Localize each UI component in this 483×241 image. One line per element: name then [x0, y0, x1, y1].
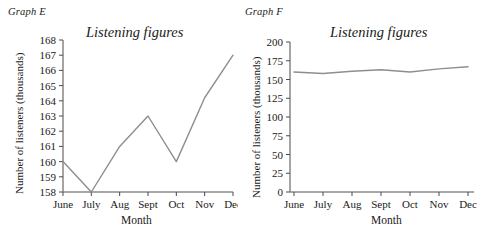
y-tick-label-graph-f: 125 [267, 92, 284, 104]
x-tick-label-graph-e: July [82, 198, 101, 210]
chart-panel-graph-e: Graph E Listening figures Number of list… [0, 0, 238, 241]
y-tick-label-graph-f: 75 [272, 130, 284, 142]
x-tick-label-graph-e: Nov [195, 198, 214, 210]
x-tick-label-graph-f: Dec [459, 198, 477, 210]
x-tick-label-graph-f: Aug [343, 198, 362, 210]
chart-panel-graph-f: Graph F Listening figures Number of list… [238, 0, 483, 241]
y-tick-label-graph-f: 175 [267, 55, 284, 67]
y-tick-label-graph-e: 160 [40, 156, 57, 168]
y-tick-label-graph-e: 164 [40, 95, 57, 107]
x-tick-label-graph-e: Aug [110, 198, 129, 210]
y-tick-label-graph-e: 165 [40, 80, 57, 92]
x-tick-label-graph-f: June [284, 198, 304, 210]
plot-area-graph-f: 0255075100125150175200JuneJulyAugSeptOct… [238, 0, 483, 241]
y-tick-label-graph-e: 166 [40, 64, 57, 76]
y-tick-label-graph-f: 50 [272, 149, 284, 161]
y-tick-label-graph-e: 167 [40, 49, 57, 61]
y-tick-label-graph-f: 100 [267, 111, 284, 123]
dual-line-chart-figure: Graph E Listening figures Number of list… [0, 0, 483, 241]
y-tick-label-graph-e: 163 [40, 110, 57, 122]
x-tick-label-graph-e: June [53, 198, 73, 210]
x-tick-label-graph-e: Oct [168, 198, 184, 210]
data-series-line-graph-e [63, 55, 233, 192]
x-tick-label-graph-e: Dec [224, 198, 238, 210]
x-tick-label-graph-f: Oct [402, 198, 418, 210]
y-tick-label-graph-f: 150 [267, 74, 284, 86]
y-tick-label-graph-e: 159 [40, 171, 57, 183]
y-tick-label-graph-f: 200 [267, 36, 284, 48]
x-tick-label-graph-e: Sept [138, 198, 158, 210]
y-tick-label-graph-e: 168 [40, 34, 57, 46]
plot-area-graph-e: 158159160161162163164165166167168JuneJul… [0, 0, 238, 241]
x-tick-label-graph-f: Sept [371, 198, 391, 210]
data-series-line-graph-f [294, 67, 468, 74]
y-tick-label-graph-f: 25 [272, 167, 284, 179]
y-tick-label-graph-f: 0 [278, 186, 284, 198]
x-tick-label-graph-f: Nov [430, 198, 449, 210]
y-tick-label-graph-e: 158 [40, 186, 57, 198]
y-tick-label-graph-e: 162 [40, 125, 57, 137]
x-tick-label-graph-f: July [314, 198, 333, 210]
y-tick-label-graph-e: 161 [40, 140, 57, 152]
